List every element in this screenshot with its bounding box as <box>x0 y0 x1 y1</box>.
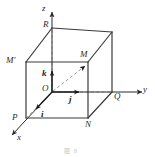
vertex-label-N: N <box>85 120 91 129</box>
edge-Mprime-R <box>26 28 52 62</box>
unit-vector-i-arrow <box>36 92 52 109</box>
position-vector-OM <box>53 66 85 91</box>
cube-coordinate-diagram <box>0 0 155 157</box>
unit-vector-label-k: k <box>42 69 47 78</box>
axis-label-y: y <box>143 85 147 94</box>
edge-R-topBackRight <box>52 28 112 32</box>
edge-topBackRight-M <box>88 32 112 62</box>
figure-container: z y x k j i R M' M O P N Q 图 8 <box>0 0 155 157</box>
edge-N-Q <box>88 92 112 118</box>
axes-group <box>12 12 142 135</box>
vertex-label-P: P <box>12 113 18 122</box>
vertex-label-Q: Q <box>114 92 121 101</box>
unit-vector-label-i: i <box>41 110 44 119</box>
axis-label-x: x <box>17 133 21 142</box>
vertex-label-M-prime: M' <box>6 56 15 65</box>
vertex-label-O: O <box>42 84 49 93</box>
axis-label-z: z <box>42 4 46 13</box>
vertex-label-M: M <box>80 50 88 59</box>
vertex-label-R: R <box>43 20 49 29</box>
unit-vector-label-j: j <box>69 95 72 104</box>
figure-caption: 图 8 <box>64 146 78 155</box>
